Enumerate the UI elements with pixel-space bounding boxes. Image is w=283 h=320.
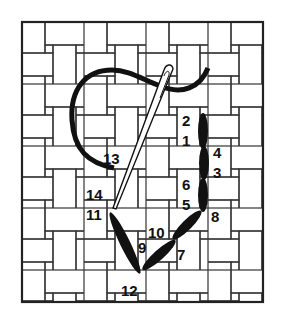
label-3: 3 [213, 164, 221, 181]
label-8: 8 [211, 208, 219, 225]
label-1: 1 [182, 132, 190, 149]
fabric-grid [22, 22, 263, 302]
label-11: 11 [86, 206, 102, 223]
label-10: 10 [148, 224, 165, 241]
label-2: 2 [182, 112, 190, 129]
label-4: 4 [213, 144, 222, 161]
label-12: 12 [121, 282, 138, 299]
stitch-diagram: 1 2 3 4 5 6 7 8 9 10 11 12 13 14 [0, 0, 283, 320]
label-13: 13 [103, 150, 120, 167]
label-14: 14 [86, 186, 103, 203]
stitch-1-2 [198, 113, 208, 149]
stitch-5-6 [198, 178, 208, 212]
label-9: 9 [138, 239, 146, 256]
stitch-3-4 [199, 146, 209, 180]
label-6: 6 [182, 176, 190, 193]
label-7: 7 [177, 246, 185, 263]
label-5: 5 [182, 196, 190, 213]
